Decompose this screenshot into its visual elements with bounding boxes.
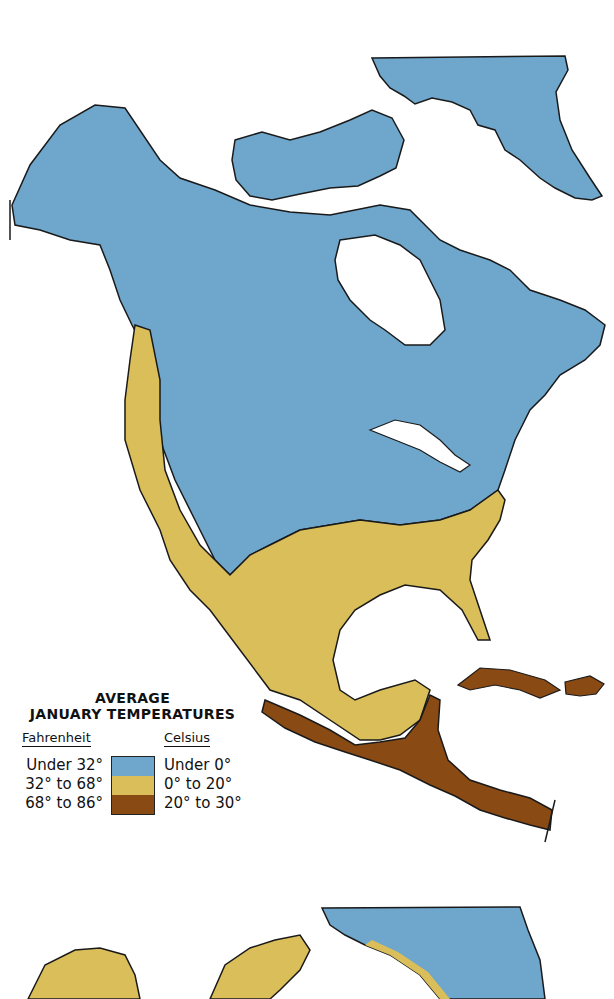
legend-title-line2: JANUARY TEMPERATURES [0,706,265,722]
swatch-mild [112,776,154,795]
celsius-column: Under 0° 0° to 20° 20° to 30° [164,756,242,813]
legend-c-warm: 20° to 30° [164,794,242,813]
legend-swatch [111,756,155,815]
swatch-cold [112,757,154,776]
legend-c-mild: 0° to 20° [164,775,242,794]
greenland [372,56,602,200]
cuba [458,668,560,698]
legend-title-line1: AVERAGE [0,690,265,706]
celsius-label: Celsius [164,730,210,747]
swatch-warm [112,795,154,814]
hispaniola [565,676,604,696]
map-legend: AVERAGE JANUARY TEMPERATURES Fahrenheit … [0,690,265,722]
legend-f-warm: 68° to 86° [25,794,103,813]
temperature-map [0,0,614,999]
legend-f-cold: Under 32° [25,756,103,775]
legend-c-cold: Under 0° [164,756,242,775]
fahrenheit-label: Fahrenheit [22,730,91,747]
arctic-islands [232,110,404,200]
fahrenheit-column: Under 32° 32° to 68° 68° to 86° [25,756,103,813]
second-map-mild [28,948,140,999]
second-map-islands [210,935,310,999]
legend-f-mild: 32° to 68° [25,775,103,794]
